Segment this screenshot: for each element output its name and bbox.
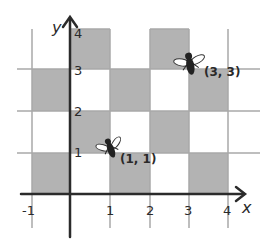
y-axis-label: y <box>51 18 62 37</box>
x-tick-label: 3 <box>184 203 192 218</box>
x-tick-label: 1 <box>106 203 114 218</box>
cell-m1-0 <box>32 153 70 194</box>
grid-lines <box>17 29 260 228</box>
y-tick-label: 4 <box>74 26 82 41</box>
cell-3-0 <box>189 153 228 194</box>
x-axis-label: x <box>241 198 252 217</box>
y-tick-label: 2 <box>74 104 82 119</box>
y-tick-label: 1 <box>74 145 82 160</box>
cell-m1-2 <box>32 69 70 111</box>
y-tick-label: 3 <box>74 63 82 78</box>
x-tick-label: -1 <box>22 203 35 218</box>
coordinate-grid-diagram: x y -1 1 2 3 4 1 2 3 4 (1, 1) (3, 3) <box>0 0 276 251</box>
x-tick-label: 2 <box>146 203 154 218</box>
point-label: (1, 1) <box>120 152 156 166</box>
axes <box>21 17 245 237</box>
cell-1-2 <box>110 69 150 111</box>
cell-2-1 <box>150 111 189 153</box>
point-label: (3, 3) <box>204 65 240 79</box>
x-tick-label: 4 <box>223 203 231 218</box>
